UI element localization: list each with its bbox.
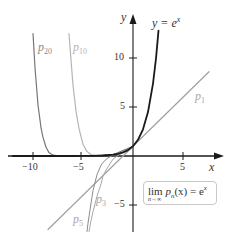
p20-label: p20	[38, 40, 52, 56]
lim-word: lim	[148, 185, 163, 197]
p3-label-sub: 3	[102, 199, 106, 208]
lim-under: n→∞	[148, 196, 161, 202]
p5-label-sub: 5	[79, 219, 83, 228]
y-axis-label: y	[121, 10, 126, 25]
x-axis-arrow-icon	[214, 153, 224, 160]
p3-label: p3	[96, 192, 106, 208]
limit-annotation-box: lim pn(x) = ex n→∞	[143, 181, 217, 205]
y-tick-label-10: 10	[114, 51, 124, 62]
p5-label: p5	[73, 212, 83, 228]
curve-p5	[87, 140, 138, 232]
lim-tail: (x) = e	[174, 185, 203, 197]
lim-sup: x	[204, 184, 207, 192]
x-tick-label-5: 5	[180, 161, 185, 172]
ex-label: y = ex	[152, 15, 180, 31]
x-tick-label-m5: −5	[73, 161, 84, 172]
y-tick-label-m5: −5	[114, 198, 125, 209]
x-tick-label-m10: −10	[22, 161, 38, 172]
y-axis-arrow-icon	[130, 14, 137, 24]
y-tick-label-5: 5	[120, 100, 125, 111]
ex-label-sup: x	[177, 15, 181, 24]
ex-label-main: y = e	[152, 16, 177, 30]
p20-label-sub: 20	[44, 47, 52, 56]
p1-label-sub: 1	[201, 96, 205, 105]
p10-label: p10	[73, 40, 87, 56]
p1-label: p1	[195, 89, 205, 105]
x-axis-label: x	[209, 160, 214, 175]
p10-label-sub: 10	[79, 47, 87, 56]
